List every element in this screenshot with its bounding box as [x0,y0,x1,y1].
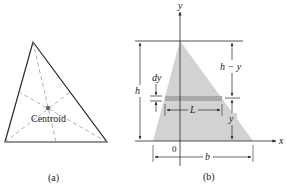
figure: Centroid (a) y x 0 h dy L [0,0,287,189]
y-label: y [228,113,234,124]
origin-label: 0 [172,144,177,154]
centroid-dot [46,106,50,110]
panel-b-triangle-area: y x 0 h dy L h − y y [134,0,284,183]
h-minus-y-label: h − y [220,61,242,72]
x-axis-label: x [278,135,284,146]
b-label: b [205,151,210,162]
centroid-label: Centroid [31,113,66,124]
caption-b: (b) [203,171,215,183]
y-axis-label: y [177,0,183,11]
caption-a: (a) [48,172,59,184]
h-label: h [135,85,140,96]
dy-label: dy [152,72,162,83]
triangle-outline [5,42,107,142]
L-label: L [189,104,196,115]
area-strip [165,96,222,101]
shaded-triangle [153,41,253,141]
panel-a-triangle-centroid: Centroid (a) [5,42,107,184]
